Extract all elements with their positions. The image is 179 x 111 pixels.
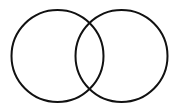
venn-diagram: [0, 0, 179, 111]
right-circle: [76, 10, 168, 102]
